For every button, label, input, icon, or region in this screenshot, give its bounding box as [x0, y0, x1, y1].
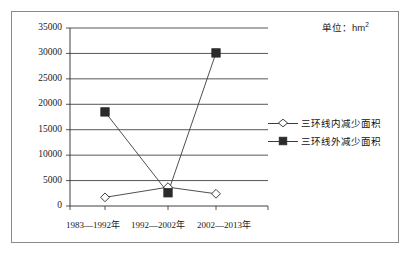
x-axis-tick-label: 1992—2002年 — [131, 218, 185, 231]
y-axis-tick-label: 20000 — [10, 98, 62, 108]
series-line — [105, 53, 216, 193]
unit-text: 单位：hm — [322, 22, 365, 33]
y-axis-tick-label: 30000 — [10, 47, 62, 57]
x-axis-tick-label: 2002—2013年 — [197, 218, 251, 231]
data-point-hollow-diamond — [212, 189, 221, 198]
y-axis-tick-label: 5000 — [10, 175, 62, 185]
axis-ticks — [66, 28, 268, 210]
legend-item-outer[interactable]: 三环线外减少面积 — [268, 134, 381, 148]
y-axis-tick-label: 35000 — [10, 22, 62, 32]
unit-annotation: 单位：hm2 — [322, 20, 369, 34]
legend-label-inner: 三环线内减少面积 — [301, 116, 381, 130]
data-point-filled-square — [164, 189, 172, 197]
unit-superscript: 2 — [365, 21, 369, 28]
gridlines — [70, 28, 268, 181]
y-axis-tick-label: 0 — [10, 200, 62, 210]
legend-label-outer: 三环线外减少面积 — [301, 134, 381, 148]
legend-marker-hollow-diamond-icon — [268, 118, 298, 128]
data-point-hollow-diamond — [101, 193, 110, 202]
data-point-filled-square — [212, 49, 220, 57]
y-axis-tick-label: 10000 — [10, 149, 62, 159]
data-point-filled-square — [101, 108, 109, 116]
series-layer — [101, 49, 221, 202]
x-axis-tick-label: 1983—1992年 — [66, 218, 120, 231]
legend-item-inner[interactable]: 三环线内减少面积 — [268, 116, 381, 130]
y-axis-tick-label: 25000 — [10, 73, 62, 83]
series-line — [105, 187, 216, 197]
legend-marker-filled-square-icon — [268, 136, 298, 146]
y-axis-tick-label: 15000 — [10, 124, 62, 134]
